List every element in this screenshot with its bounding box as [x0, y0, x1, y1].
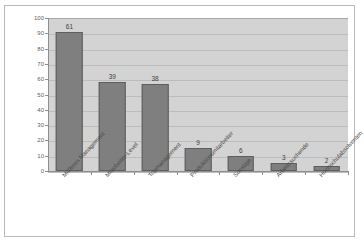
y-axis-line: [48, 18, 49, 172]
y-axis-tick-label: 50: [20, 92, 44, 98]
bar-slot: 6: [219, 19, 262, 171]
x-axis-tick-mark: [91, 172, 92, 175]
y-axis-tick-mark: [45, 18, 48, 19]
y-axis-tick-mark: [45, 156, 48, 157]
y-axis-tick-label: 0: [20, 168, 44, 174]
y-axis-tick-label: 30: [20, 122, 44, 128]
x-axis-tick-mark: [134, 172, 135, 175]
bar-value-label: 3: [282, 154, 286, 161]
bar-value-label: 61: [66, 23, 73, 30]
y-axis-tick-mark: [45, 33, 48, 34]
x-axis-tick-mark: [262, 172, 263, 175]
bar-value-label: 9: [196, 139, 200, 146]
x-axis-tick-mark: [348, 172, 349, 175]
y-axis-tick-label: 80: [20, 46, 44, 52]
y-axis-tick-label: 10: [20, 153, 44, 159]
y-axis-tick-mark: [45, 49, 48, 50]
y-axis-tick-label: 40: [20, 107, 44, 113]
y-axis-tick-label: 90: [20, 30, 44, 36]
y-axis-tick-mark: [45, 95, 48, 96]
y-axis-tick-label: 20: [20, 137, 44, 143]
y-axis-tick-labels: 0102030405060708090100: [19, 18, 44, 171]
chart-figure: 0102030405060708090100 6139389632 Mittle…: [4, 5, 355, 237]
y-axis-tick-label: 60: [20, 76, 44, 82]
x-axis-tick-mark: [177, 172, 178, 175]
y-axis-tick-mark: [45, 171, 48, 172]
x-axis-tick-mark: [305, 172, 306, 175]
bar-value-label: 39: [109, 73, 116, 80]
y-axis-tick-mark: [45, 110, 48, 111]
bar-value-label: 6: [239, 147, 243, 154]
y-axis-tick-mark: [45, 140, 48, 141]
y-axis-tick-mark: [45, 64, 48, 65]
x-axis-tick-mark: [219, 172, 220, 175]
y-axis-tick-label: 100: [20, 15, 44, 21]
y-axis-tick-label: 70: [20, 61, 44, 67]
x-axis-category-labels: Mittleres ManagementMitarbeiter-LevelTop…: [48, 172, 349, 238]
bar[interactable]: [56, 32, 83, 171]
y-axis-tick-mark: [45, 125, 48, 126]
bar-value-label: 38: [152, 75, 159, 82]
y-axis-tick-mark: [45, 79, 48, 80]
